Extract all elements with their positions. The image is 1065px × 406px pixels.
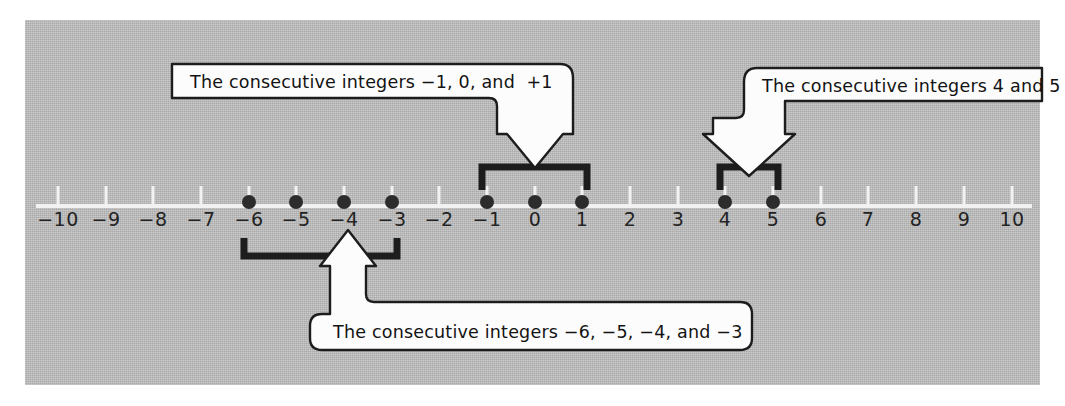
tick-label--10: −10 <box>37 208 79 230</box>
point-4 <box>718 195 732 209</box>
point--4 <box>337 195 351 209</box>
tick-label--4: −4 <box>329 208 358 230</box>
tick-label-5: 5 <box>767 208 780 230</box>
tick-label-7: 7 <box>862 208 875 230</box>
tick-label--7: −7 <box>186 208 215 230</box>
tick-label--5: −5 <box>281 208 310 230</box>
bracket-bottom <box>244 238 397 256</box>
tick-label-9: 9 <box>958 208 971 230</box>
tick-label-0: 0 <box>529 208 542 230</box>
point--1 <box>480 195 494 209</box>
callout-center[interactable] <box>172 64 573 168</box>
tick-label-2: 2 <box>624 208 637 230</box>
callout-bottom-shape[interactable] <box>310 230 752 350</box>
point-0 <box>528 195 542 209</box>
callout-right[interactable] <box>703 68 1042 176</box>
tick-label-10: 10 <box>999 208 1024 230</box>
figure-stage: −10 −9 −8 −7 −6 −5 −4 −3 −2 −1 0 1 2 3 4… <box>0 0 1065 406</box>
callout-bottom[interactable] <box>310 230 752 350</box>
point-5 <box>766 195 780 209</box>
tick-label-3: 3 <box>672 208 685 230</box>
tick-label-8: 8 <box>910 208 923 230</box>
tick-label--1: −1 <box>472 208 501 230</box>
figure-svg: −10 −9 −8 −7 −6 −5 −4 −3 −2 −1 0 1 2 3 4… <box>0 0 1065 406</box>
tick-label-4: 4 <box>719 208 732 230</box>
tick-label--9: −9 <box>91 208 120 230</box>
tick-label--8: −8 <box>138 208 167 230</box>
tick-label--3: −3 <box>377 208 406 230</box>
point--3 <box>385 195 399 209</box>
tick-label--6: −6 <box>234 208 263 230</box>
point-1 <box>575 195 589 209</box>
number-line-figure: −10 −9 −8 −7 −6 −5 −4 −3 −2 −1 0 1 2 3 4… <box>0 0 1065 406</box>
tick-labels: −10 −9 −8 −7 −6 −5 −4 −3 −2 −1 0 1 2 3 4… <box>37 208 1024 230</box>
callout-center-shape[interactable] <box>172 64 573 168</box>
tick-label--2: −2 <box>424 208 453 230</box>
tick-label-6: 6 <box>815 208 828 230</box>
number-line: −10 −9 −8 −7 −6 −5 −4 −3 −2 −1 0 1 2 3 4… <box>36 186 1032 230</box>
callout-right-shape[interactable] <box>703 68 1042 176</box>
tick-label-1: 1 <box>576 208 589 230</box>
point--6 <box>242 195 256 209</box>
point--5 <box>289 195 303 209</box>
